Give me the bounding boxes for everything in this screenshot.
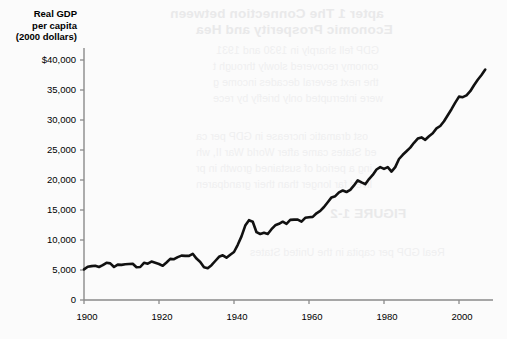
plot-area — [0, 0, 507, 339]
data-series-line — [84, 70, 485, 270]
chart-figure: apter 1 The Connection between Economic … — [0, 0, 507, 339]
